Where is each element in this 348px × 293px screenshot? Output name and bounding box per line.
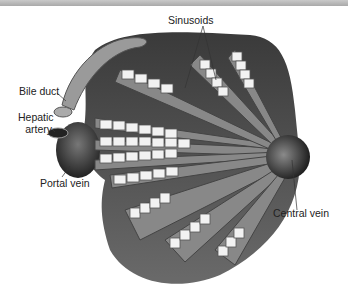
label-bile-duct: Bile duct bbox=[19, 85, 59, 97]
label-hepatic-artery-line1: Hepatic bbox=[18, 111, 52, 123]
label-sinusoids: Sinusoids bbox=[168, 14, 214, 26]
label-portal-vein: Portal vein bbox=[40, 177, 90, 189]
label-central-vein: Central vein bbox=[273, 207, 329, 219]
liver-lobule-illustration bbox=[0, 0, 348, 293]
central-vein-shape bbox=[266, 135, 310, 179]
label-hepatic-artery-line2: artery bbox=[18, 123, 52, 135]
